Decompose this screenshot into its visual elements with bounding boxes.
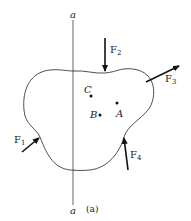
force-label-f1: F1 [14, 134, 25, 147]
force-label-f3: F3 [165, 73, 176, 86]
force-arrow-f4 [124, 138, 128, 170]
point-a [116, 102, 119, 105]
axis-label-top: a [70, 9, 76, 20]
axis-label-bottom: a [70, 205, 76, 216]
point-label-c: C [84, 84, 92, 95]
point-label-a: A [115, 108, 123, 119]
force-label-f4: F4 [130, 149, 142, 162]
rigid-body-diagram: a a F2 F3 F1 F4 C A B (a) [0, 0, 191, 221]
point-b [99, 114, 102, 117]
point-label-b: B [89, 109, 97, 120]
force-label-f2: F2 [110, 44, 121, 57]
figure-caption: (a) [86, 204, 98, 214]
